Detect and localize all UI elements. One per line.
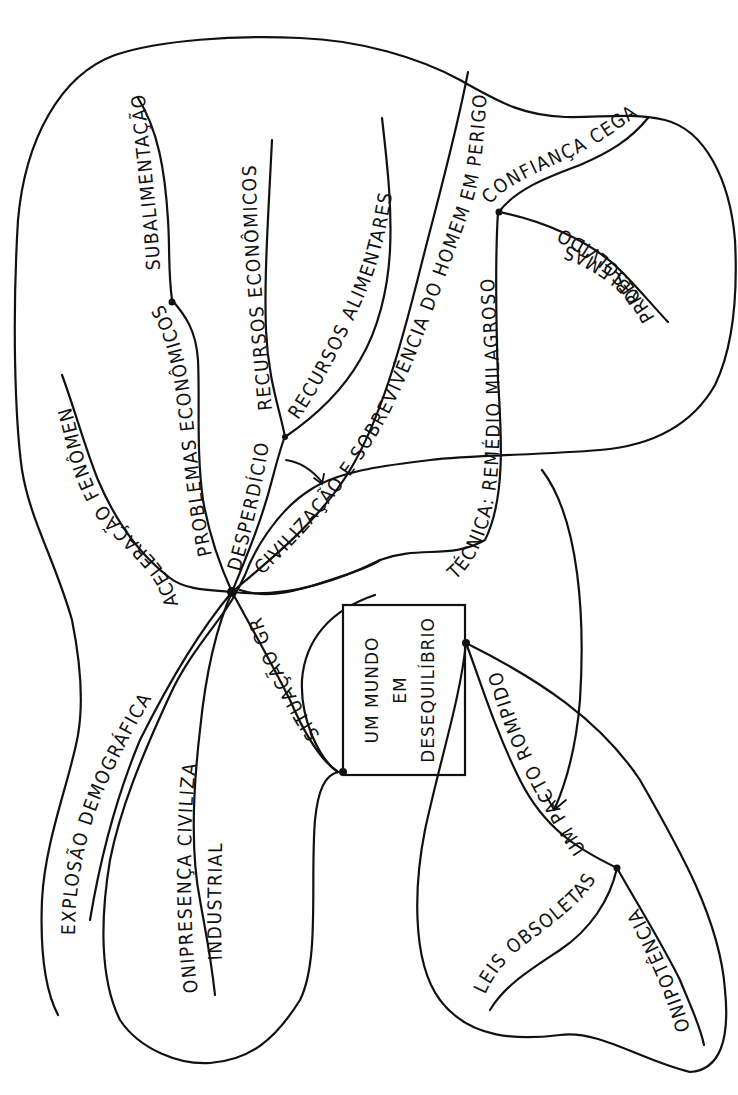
label-situacao: SITUAÇÃO GRAVE (0, 0, 323, 745)
hub-node (227, 587, 237, 597)
label-onipotencia: ONIPOTÊNCIA (622, 905, 694, 1035)
label-subalimentacao: SUBALIMENTAÇÃO (126, 93, 164, 271)
label-industrial: INDUSTRIAL (203, 842, 226, 961)
central-line-3: DESEQUILÍBRIO (417, 617, 438, 763)
label-civilizacao: CIVILIZAÇÃO E SOBREVIVÊNCIA DO HOMEM EM … (250, 92, 491, 578)
label-recursos-economicos: RECURSOS ECONÔMICOS (238, 164, 276, 412)
label-aceleracao: ACELERAÇÃO FENÔMENOS (0, 0, 182, 609)
label-problemas: PROBLEMAS ECONÔMICOS (146, 301, 216, 559)
central-line-2: EM (390, 676, 410, 703)
node-recursos (282, 434, 288, 440)
label-tecnica: TÉCNICA: REMÉDIO MILAGROSO (442, 277, 504, 584)
node-subalimentacao (169, 299, 176, 306)
label-explosao: EXPLOSÃO DEMOGRÁFICA (57, 688, 156, 935)
mind-map-svg: ACELERAÇÃO FENÔMENOS PROBLEMAS ECONÔMICO… (0, 0, 738, 1095)
mind-map-canvas: ACELERAÇÃO FENÔMENOS PROBLEMAS ECONÔMICO… (0, 0, 738, 1095)
node-box-left (339, 768, 347, 776)
label-pacto: UM PACTO ROMPIDO (483, 668, 589, 860)
central-line-1: UM MUNDO (362, 637, 382, 744)
arrow-tecnica-pacto (542, 470, 582, 808)
outline-lower-left-lobe (103, 592, 338, 1063)
arrow-desperdicio-civilizacao (286, 460, 324, 484)
